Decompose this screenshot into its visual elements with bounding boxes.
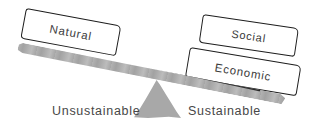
unsustainable-label: Unsustainable xyxy=(52,104,140,118)
sustainable-label: Sustainable xyxy=(188,104,261,118)
sustainability-seesaw-diagram: Natural Social Economic Unsustainable Su… xyxy=(0,0,310,129)
natural-box-label: Natural xyxy=(49,22,93,42)
fulcrum-triangle-icon xyxy=(134,80,181,118)
social-box-label: Social xyxy=(231,27,267,44)
economic-box-label: Economic xyxy=(214,61,272,82)
